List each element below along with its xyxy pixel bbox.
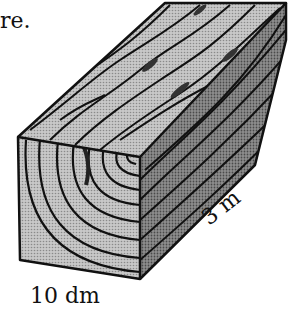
wooden-beam-diagram — [0, 0, 291, 316]
width-dimension-label: 10 dm — [30, 283, 100, 308]
beam-front-face — [18, 137, 140, 279]
